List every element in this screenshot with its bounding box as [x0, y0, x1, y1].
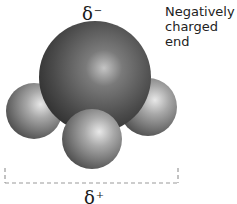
- positive-sign: +: [96, 189, 104, 200]
- delta-minus-label: δ−: [82, 2, 102, 23]
- outer-atom-bottom: [62, 109, 122, 169]
- positive-end-bracket: [5, 168, 178, 183]
- negative-sign: −: [94, 5, 102, 16]
- caption-line-1: Negatively: [165, 4, 237, 19]
- delta-plus-label: δ+: [84, 186, 104, 204]
- caption-line-2: charged end: [165, 19, 237, 49]
- delta-symbol: δ: [84, 187, 95, 204]
- delta-symbol: δ: [82, 3, 93, 24]
- negatively-charged-end-caption: Negatively charged end: [165, 4, 237, 49]
